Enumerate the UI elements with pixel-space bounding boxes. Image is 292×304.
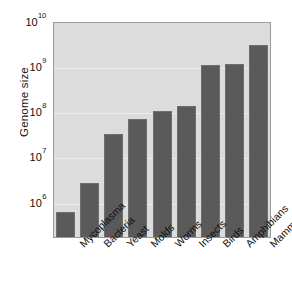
y-tick-exponent: 10 xyxy=(38,11,46,20)
bar xyxy=(56,212,75,237)
y-tick-exponent: 7 xyxy=(42,146,46,155)
x-tick-label: Amphibians xyxy=(243,241,251,249)
bar xyxy=(153,111,172,237)
bar xyxy=(177,106,196,237)
x-tick-label: Birds xyxy=(220,241,228,249)
x-tick-label: Bacteria xyxy=(101,241,109,249)
y-tick-label: 1010 xyxy=(25,16,46,28)
y-tick-exponent: 8 xyxy=(42,101,46,110)
y-tick-label: 108 xyxy=(30,106,46,118)
y-tick-label: 106 xyxy=(30,197,46,209)
y-tick-exponent: 9 xyxy=(42,56,46,65)
y-tick-mantissa: 10 xyxy=(30,197,42,209)
genome-size-bar-chart: Genome size 1010109108107106 MycoplasmaB… xyxy=(0,0,292,304)
plot-area xyxy=(53,22,271,238)
x-tick-label: Worms xyxy=(172,241,180,249)
y-tick-mantissa: 10 xyxy=(30,151,42,163)
y-tick-mantissa: 10 xyxy=(25,16,37,28)
x-tick-label: Mycoplasma xyxy=(77,241,85,249)
y-tick-mantissa: 10 xyxy=(30,61,42,73)
bar xyxy=(201,65,220,237)
bar-series xyxy=(54,23,270,237)
x-tick-label: Mammals xyxy=(267,241,275,249)
x-tick-label: Yeast xyxy=(124,241,132,249)
y-axis-tick-labels: 1010109108107106 xyxy=(0,0,50,240)
bar xyxy=(249,45,268,237)
x-tick-label: Insects xyxy=(196,241,204,249)
x-tick-label: Molds xyxy=(148,241,156,249)
y-tick-exponent: 6 xyxy=(42,192,46,201)
y-tick-label: 109 xyxy=(30,61,46,73)
bar xyxy=(225,64,244,237)
y-tick-label: 107 xyxy=(30,151,46,163)
y-tick-mantissa: 10 xyxy=(30,106,42,118)
x-axis-tick-labels: MycoplasmaBacteriaYeastMoldsWormsInsects… xyxy=(53,238,271,304)
